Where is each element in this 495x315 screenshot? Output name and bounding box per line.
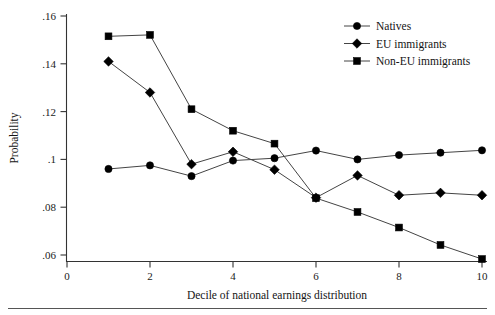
- diamond-marker-icon: [436, 188, 446, 198]
- circle-marker-icon: [105, 165, 112, 172]
- legend-item-eu-immigrants[interactable]: EU immigrants: [344, 38, 447, 51]
- legend-label: EU immigrants: [376, 38, 447, 51]
- square-marker-icon: [271, 140, 278, 147]
- circle-marker-icon: [146, 162, 153, 169]
- legend-label: Natives: [376, 20, 412, 32]
- x-tick-label: 6: [313, 270, 319, 282]
- square-marker-icon: [354, 58, 361, 65]
- y-tick-label: .16: [42, 10, 56, 22]
- diamond-marker-icon: [394, 190, 404, 200]
- circle-marker-icon: [312, 147, 319, 154]
- square-marker-icon: [354, 209, 361, 216]
- y-tick-label: .06: [42, 249, 56, 261]
- square-marker-icon: [313, 195, 320, 202]
- square-marker-icon: [147, 31, 154, 38]
- circle-marker-icon: [271, 155, 278, 162]
- y-tick-label: .08: [42, 201, 56, 213]
- diamond-marker-icon: [270, 165, 280, 175]
- square-marker-icon: [396, 224, 403, 231]
- circle-marker-icon: [478, 147, 485, 154]
- line-chart-canvas: .16 .14 .12 .1 .08 .06 0 2 4 6 8 10 Prob…: [0, 0, 495, 315]
- y-tick-label: .1: [48, 153, 56, 165]
- x-tick-label: 4: [230, 270, 236, 282]
- square-marker-icon: [188, 106, 195, 113]
- diamond-marker-icon: [187, 159, 197, 169]
- circle-marker-icon: [229, 157, 236, 164]
- y-tick-label: .12: [42, 106, 56, 118]
- circle-marker-icon: [188, 173, 195, 180]
- circle-marker-icon: [353, 22, 360, 29]
- diamond-marker-icon: [477, 190, 487, 200]
- circle-marker-icon: [437, 149, 444, 156]
- legend-label: Non-EU immigrants: [376, 55, 471, 68]
- legend-item-non-eu-immigrants[interactable]: Non-EU immigrants: [344, 55, 471, 68]
- x-axis-ticks: [67, 262, 482, 268]
- circle-marker-icon: [354, 156, 361, 163]
- y-axis-ticks: [61, 16, 67, 255]
- chart-figure: .16 .14 .12 .1 .08 .06 0 2 4 6 8 10 Prob…: [0, 0, 495, 315]
- square-marker-icon: [437, 242, 444, 249]
- x-tick-label: 8: [396, 270, 402, 282]
- x-tick-label: 0: [64, 270, 70, 282]
- square-marker-icon: [479, 256, 486, 263]
- square-marker-icon: [230, 127, 237, 134]
- x-tick-label: 2: [147, 270, 153, 282]
- y-axis-title: Probability: [8, 112, 21, 163]
- series-eu-immigrants: [104, 57, 487, 203]
- diamond-marker-icon: [104, 57, 114, 67]
- y-axis-tick-labels: .16 .14 .12 .1 .08 .06: [42, 10, 56, 261]
- diamond-marker-icon: [352, 39, 362, 49]
- diamond-marker-icon: [228, 147, 238, 157]
- x-axis-title: Decile of national earnings distribution: [187, 289, 367, 302]
- legend-item-natives[interactable]: Natives: [344, 20, 412, 32]
- diamond-marker-icon: [353, 171, 363, 181]
- x-tick-label: 10: [477, 270, 489, 282]
- circle-marker-icon: [395, 151, 402, 158]
- series-line: [109, 150, 483, 176]
- y-tick-label: .14: [42, 58, 56, 70]
- series-line: [109, 61, 483, 197]
- x-axis-tick-labels: 0 2 4 6 8 10: [64, 270, 488, 282]
- series-line: [109, 35, 483, 259]
- square-marker-icon: [105, 33, 112, 40]
- series-natives: [105, 147, 486, 180]
- diamond-marker-icon: [145, 88, 155, 98]
- chart-legend: NativesEU immigrantsNon-EU immigrants: [344, 20, 471, 68]
